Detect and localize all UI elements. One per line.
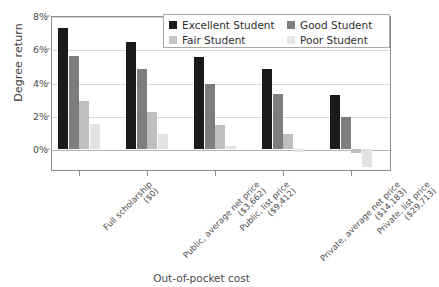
legend-swatch-icon-poor — [287, 36, 295, 44]
bar-poor — [90, 124, 100, 150]
y-tick-label: 8% — [2, 11, 48, 22]
legend-item-excellent-student[interactable]: Excellent Student — [169, 19, 287, 31]
legend-label-excellent: Excellent Student — [182, 19, 275, 31]
legend-label-fair: Fair Student — [182, 34, 245, 46]
x-tick-mark — [283, 171, 284, 176]
chart-legend: Excellent Student Good Student Fair Stud… — [163, 14, 390, 48]
bar-poor — [158, 134, 168, 150]
x-tick-mark — [147, 171, 148, 176]
bar-excellent — [330, 95, 340, 149]
bar-fair — [79, 101, 89, 149]
legend-item-good-student[interactable]: Good Student — [287, 19, 372, 31]
bar-poor — [294, 149, 304, 152]
bar-excellent — [58, 28, 68, 150]
bar-good — [69, 56, 79, 149]
bar-good — [205, 84, 215, 150]
y-tick-label: 6% — [2, 44, 48, 55]
y-tick-mark — [45, 82, 50, 83]
bar-good — [273, 94, 283, 150]
bar-excellent — [262, 69, 272, 150]
legend-label-good: Good Student — [300, 19, 372, 31]
bar-poor — [362, 149, 372, 167]
bar-poor — [226, 146, 236, 149]
y-tick-mark — [45, 116, 50, 117]
legend-label-poor: Poor Student — [300, 34, 368, 46]
bar-fair — [215, 125, 225, 149]
x-tick-label: Full scholarship($0) — [102, 180, 161, 239]
x-axis-title: Out-of-pocket cost — [0, 272, 403, 284]
bar-fair — [283, 134, 293, 150]
x-tick-mark — [215, 171, 216, 176]
bar-group — [51, 16, 119, 171]
y-tick-mark — [45, 149, 50, 150]
y-tick-label: 4% — [2, 77, 48, 88]
y-tick-mark — [45, 16, 50, 17]
bar-fair — [351, 149, 361, 152]
y-tick-mark — [45, 49, 50, 50]
legend-item-poor-student[interactable]: Poor Student — [287, 34, 368, 46]
legend-row-1: Excellent Student Good Student — [169, 17, 385, 32]
legend-swatch-icon-good — [287, 21, 295, 29]
legend-row-2: Fair Student Poor Student — [169, 32, 385, 47]
bar-excellent — [126, 42, 136, 150]
legend-swatch-icon-fair — [169, 36, 177, 44]
y-tick-label: 0% — [2, 144, 48, 155]
legend-swatch-icon-excellent — [169, 21, 177, 29]
x-tick-mark — [79, 171, 80, 176]
bar-excellent — [194, 57, 204, 150]
bar-good — [341, 117, 351, 150]
x-tick-mark — [351, 171, 352, 176]
y-tick-label: 2% — [2, 111, 48, 122]
bar-fair — [147, 112, 157, 150]
bar-good — [137, 69, 147, 150]
legend-item-fair-student[interactable]: Fair Student — [169, 34, 287, 46]
